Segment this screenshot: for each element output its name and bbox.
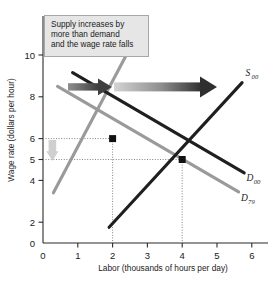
x-tick-label-1: 1 [75, 250, 80, 261]
x-tick-label-2: 2 [110, 250, 115, 261]
demand-shift-arrow-shaft [68, 83, 98, 90]
wage-fall-arrow [46, 140, 58, 161]
curves [53, 47, 244, 228]
supply-shift-arrow [114, 76, 217, 97]
y-tick-label-8: 8 [30, 91, 35, 102]
callout-box: Supply increases by more than demand and… [44, 15, 149, 57]
supply-demand-figure: 0 2 4 5 6 8 10 0 1 2 3 4 5 6 Wage rate (… [0, 0, 276, 285]
y-tick-label-2: 2 [30, 217, 35, 228]
y-tick-label-6: 6 [30, 133, 35, 144]
y-axis-ticks: 0 2 4 5 6 8 10 [24, 50, 43, 249]
x-axis-title: Labor (thousands of hours per day) [98, 263, 228, 273]
x-tick-label-4: 4 [180, 250, 185, 261]
curve-label-supply-2000-text: S [246, 68, 251, 78]
droplines [43, 139, 182, 243]
y-axis-title: Wage rate (dollars per hour) [6, 78, 16, 182]
curve-label-demand-2000: D 00 [246, 173, 261, 185]
curve-label-supply-2000-sub: 00 [252, 73, 259, 80]
y-tick-label-0: 0 [30, 238, 35, 249]
callout-line-3: and the wage rate falls [51, 40, 143, 50]
x-tick-label-0: 0 [40, 250, 45, 261]
curve-label-demand-1979-text: D [240, 193, 248, 203]
callout-line-2: more than demand [51, 30, 143, 40]
x-tick-label-6: 6 [249, 250, 254, 261]
equilibrium-marker-2000 [179, 156, 186, 163]
callout-line-1: Supply increases by [51, 20, 143, 30]
equilibrium-marker-1979 [109, 135, 116, 142]
curve-supply-1979 [53, 47, 130, 193]
supply-shift-arrow-shaft [114, 82, 200, 91]
y-tick-label-4: 4 [30, 175, 35, 186]
x-tick-label-5: 5 [214, 250, 219, 261]
supply-shift-arrow-head [200, 76, 217, 97]
curve-label-demand-1979: D 79 [240, 193, 255, 205]
curve-label-demand-1979-sub: 79 [248, 198, 255, 205]
wage-fall-arrow-shaft [49, 140, 57, 153]
curve-label-demand-2000-text: D [246, 173, 254, 183]
curve-label-demand-2000-sub: 00 [254, 178, 261, 185]
curve-demand-1979 [58, 86, 239, 192]
x-axis-ticks: 0 1 2 3 4 5 6 [40, 243, 254, 261]
curve-label-supply-2000: S 00 [246, 68, 259, 80]
y-tick-label-5: 5 [30, 154, 35, 165]
x-tick-label-3: 3 [145, 250, 150, 261]
y-tick-label-10: 10 [24, 50, 35, 61]
